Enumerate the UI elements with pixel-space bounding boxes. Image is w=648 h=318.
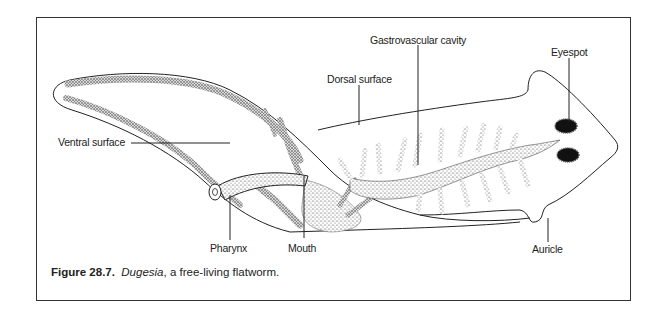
label-dorsal-surface: Dorsal surface <box>327 73 392 85</box>
label-auricle: Auricle <box>532 243 563 255</box>
caption-genus: Dugesia <box>121 266 163 278</box>
eyespot-upper <box>555 119 577 133</box>
figure-caption: Figure 28.7. Dugesia, a free-living flat… <box>51 266 279 278</box>
caption-number: Figure 28.7. <box>51 266 115 278</box>
label-ventral-surface: Ventral surface <box>58 136 125 148</box>
label-mouth: Mouth <box>288 242 316 254</box>
caption-text: , a free-living flatworm. <box>164 266 280 278</box>
eyespot-lower <box>557 148 579 162</box>
pharynx-shape <box>218 173 308 200</box>
label-eyespot: Eyespot <box>551 46 588 58</box>
label-gastrovascular-cavity: Gastrovascular cavity <box>370 34 466 46</box>
label-pharynx: Pharynx <box>210 242 247 254</box>
